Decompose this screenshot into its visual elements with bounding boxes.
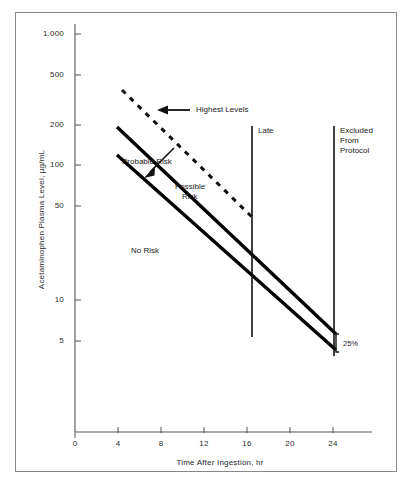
highest-levels-arrow-icon (157, 106, 190, 115)
x-tick-label-24: 24 (321, 439, 345, 448)
x-tick-label-4: 4 (106, 439, 130, 448)
y-axis-title: Acetaminophen Plasma Level, µg/mL (37, 130, 46, 310)
y-tick-label-50: 50 (30, 201, 64, 210)
y-tick-label-10: 10 (30, 295, 64, 304)
percent-25-bracket-icon (336, 334, 339, 352)
x-tick-label-16: 16 (235, 439, 259, 448)
x-tick-label-8: 8 (149, 439, 173, 448)
x-tick-label-12: 12 (192, 439, 216, 448)
annotation-excluded-line3: Protocol (340, 146, 369, 156)
x-tick-label-0: 0 (63, 439, 87, 448)
y-tick-label-5: 5 (30, 336, 64, 345)
y-tick-label-500: 500 (30, 70, 64, 79)
annotation-no-risk: No Risk (131, 246, 159, 256)
annotation-possible-risk-line2: Risk (182, 192, 198, 202)
x-axis-title: Time After Ingestion, hr (130, 458, 310, 467)
annotation-possible-risk-line1: Possible (175, 182, 205, 192)
figure-container: 1.000 500 200 100 50 10 5 0 4 8 12 16 20… (0, 0, 412, 493)
y-tick-label-1000: 1.000 (30, 29, 64, 38)
annotation-probable-risk: Probable Risk (122, 157, 172, 167)
annotation-percent-25: 25% (343, 339, 358, 349)
y-tick-label-100: 100 (30, 160, 64, 169)
annotation-highest-levels: Highest Levels (196, 105, 248, 115)
y-tick-marks (75, 34, 81, 341)
annotation-excluded-line1: Excluded (340, 126, 373, 136)
x-tick-label-20: 20 (278, 439, 302, 448)
y-tick-label-200: 200 (30, 120, 64, 129)
annotation-excluded-line2: From (340, 136, 359, 146)
annotation-late: Late (258, 126, 274, 136)
